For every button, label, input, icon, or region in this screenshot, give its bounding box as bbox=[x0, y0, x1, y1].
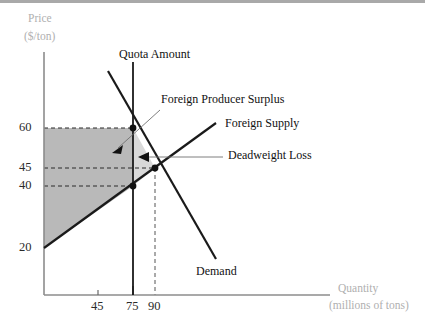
marker-quota-supply-point bbox=[130, 183, 137, 190]
y-axis-title: Price bbox=[28, 12, 52, 25]
ytick-label-45: 45 bbox=[19, 160, 32, 174]
label-foreign-producer-surplus: Foreign Producer Surplus bbox=[161, 93, 284, 107]
label-demand: Demand bbox=[196, 265, 237, 279]
ytick-label-60: 60 bbox=[19, 120, 32, 134]
label-quota-amount: Quota Amount bbox=[119, 48, 190, 62]
label-foreign-supply: Foreign Supply bbox=[225, 117, 299, 131]
label-deadweight-loss: Deadweight Loss bbox=[228, 149, 312, 163]
xtick-label-90: 90 bbox=[148, 299, 161, 313]
x-axis-title: Quantity bbox=[338, 282, 378, 295]
marker-quota-demand-point bbox=[130, 125, 137, 132]
economics-quota-diagram: Price ($/ton) Quantity (millions of tons… bbox=[0, 0, 425, 332]
marker-free-trade-equilibrium bbox=[152, 165, 159, 172]
x-axis-unit: (millions of tons) bbox=[329, 299, 409, 312]
y-axis-unit: ($/ton) bbox=[24, 30, 55, 43]
ytick-label-20: 20 bbox=[19, 240, 32, 254]
ytick-label-40: 40 bbox=[19, 178, 32, 192]
xtick-label-75: 75 bbox=[126, 299, 139, 313]
xtick-label-45: 45 bbox=[91, 299, 104, 313]
